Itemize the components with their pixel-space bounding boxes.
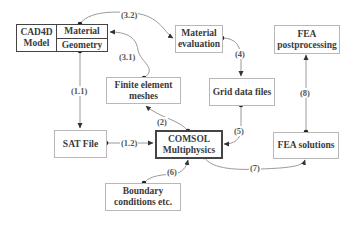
node-text: postprocessing bbox=[277, 40, 336, 50]
node-text: Material bbox=[181, 28, 216, 38]
node-text: FEA bbox=[297, 29, 316, 39]
node-text: SAT File bbox=[63, 139, 98, 150]
edge-label-1-2: (1.2) bbox=[120, 138, 138, 148]
cad4d-model-node: CAD4DModel Material Geometry bbox=[16, 24, 108, 52]
edge-label-1-1: (1.1) bbox=[70, 86, 88, 96]
sat-file-node: SAT File bbox=[54, 130, 107, 158]
boundary-conditions-node: Boundaryconditions etc. bbox=[105, 183, 181, 211]
material-cell: Material bbox=[57, 25, 107, 39]
edge-label-3-1: (3.1) bbox=[118, 52, 136, 62]
cad4d-line2: Model bbox=[24, 38, 50, 48]
fea-postprocessing-node: FEApostprocessing bbox=[274, 25, 340, 54]
node-text: Boundary bbox=[123, 186, 164, 196]
cad4d-label: CAD4DModel bbox=[17, 25, 57, 51]
finite-element-meshes-node: Finite elementmeshes bbox=[106, 77, 181, 104]
fea-solutions-node: FEA solutions bbox=[273, 132, 339, 159]
edge-label-7: (7) bbox=[249, 163, 261, 173]
geometry-cell: Geometry bbox=[57, 39, 107, 52]
edge-label-6: (6) bbox=[166, 167, 178, 177]
edge-5 bbox=[224, 105, 241, 144]
material-evaluation-node: Materialevaluation bbox=[175, 25, 223, 53]
comsol-multiphysics-node: COMSOLMultiphysics bbox=[155, 130, 223, 159]
node-text: evaluation bbox=[178, 39, 220, 49]
node-text: COMSOL bbox=[168, 134, 210, 144]
edge-label-5: (5) bbox=[233, 126, 245, 136]
cad4d-line1: CAD4D bbox=[20, 27, 52, 37]
grid-data-files-node: Grid data files bbox=[209, 78, 275, 106]
node-text: FEA solutions bbox=[278, 140, 335, 151]
node-text: meshes bbox=[129, 91, 158, 101]
edge-label-4: (4) bbox=[234, 49, 246, 59]
edge-label-3-2: (3.2) bbox=[120, 10, 138, 20]
edge-label-2: (2) bbox=[156, 117, 168, 127]
node-text: Finite element bbox=[115, 80, 173, 90]
edge-label-8: (8) bbox=[299, 88, 311, 98]
node-text: Grid data files bbox=[213, 87, 272, 98]
node-text: Multiphysics bbox=[163, 145, 215, 155]
node-text: conditions etc. bbox=[114, 197, 172, 207]
